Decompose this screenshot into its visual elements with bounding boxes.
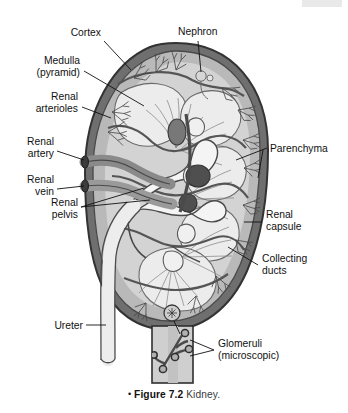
glomerulus-marker bbox=[164, 305, 180, 321]
label-renal-capsule: Renal bbox=[266, 209, 293, 220]
label-renal-pelvis: Renal bbox=[51, 197, 78, 208]
label-renal-vein: Renal bbox=[27, 174, 54, 185]
label-renal-arterioles: Renal bbox=[51, 91, 78, 102]
caption-title: Kidney. bbox=[186, 389, 220, 400]
label-parenchyma: Parenchyma bbox=[270, 143, 328, 154]
leader-renal-artery bbox=[57, 151, 84, 160]
label-renal-capsule-line2: capsule bbox=[266, 221, 302, 232]
label-renal-arterioles-line2: arterioles bbox=[36, 103, 78, 114]
kidney-diagram: Cortex Nephron Medulla (pyramid) Renal a… bbox=[0, 0, 348, 413]
glomeruli-inset bbox=[151, 326, 193, 383]
figure-container: Cortex Nephron Medulla (pyramid) Renal a… bbox=[0, 0, 348, 413]
figure-caption: • Figure 7.2 Kidney. bbox=[0, 389, 348, 400]
label-renal-artery: Renal bbox=[27, 136, 54, 147]
label-nephron: Nephron bbox=[178, 26, 218, 37]
label-medulla-line2: (pyramid) bbox=[37, 67, 80, 78]
label-glomeruli-line2: (microscopic) bbox=[218, 350, 279, 361]
label-renal-artery-line2: artery bbox=[28, 148, 55, 159]
label-medulla: Medulla bbox=[44, 55, 80, 66]
kidney-body bbox=[82, 43, 268, 363]
label-glomeruli: Glomeruli bbox=[218, 338, 262, 349]
label-collecting-ducts: Collecting bbox=[262, 253, 307, 264]
leader-cortex bbox=[104, 41, 131, 70]
label-renal-pelvis-line2: pelvis bbox=[52, 209, 78, 220]
caption-number: Figure 7.2 bbox=[134, 389, 183, 400]
label-cortex: Cortex bbox=[71, 27, 102, 38]
label-renal-vein-line2: vein bbox=[35, 186, 54, 197]
label-ureter: Ureter bbox=[54, 320, 83, 331]
caption-bullet: • bbox=[128, 389, 131, 399]
label-collecting-ducts-line2: ducts bbox=[262, 265, 287, 276]
